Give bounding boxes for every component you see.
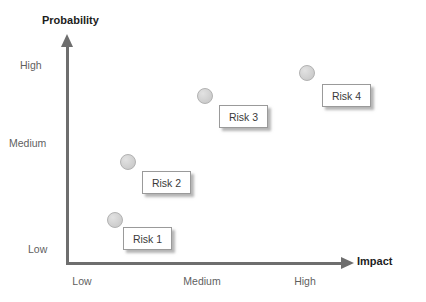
- risk-bubble-1[interactable]: [107, 212, 123, 228]
- risk-matrix-chart: Probability Impact High Medium Low Low M…: [0, 0, 426, 302]
- x-axis-title: Impact: [357, 255, 392, 267]
- x-tick-label-medium: Medium: [172, 275, 232, 287]
- x-tick-label-low: Low: [52, 275, 112, 287]
- x-tick-label-high: High: [275, 275, 335, 287]
- risk-label-text-4: Risk 4: [332, 90, 361, 102]
- y-tick-label-high: High: [20, 59, 42, 71]
- y-tick-label-medium: Medium: [9, 137, 46, 149]
- y-axis-title: Probability: [42, 14, 99, 26]
- risk-label-box-2[interactable]: Risk 2: [142, 171, 191, 194]
- risk-bubble-4[interactable]: [299, 65, 315, 81]
- risk-bubble-3[interactable]: [197, 88, 213, 104]
- y-axis-arrow-icon: [61, 34, 73, 47]
- risk-label-text-3: Risk 3: [229, 111, 258, 123]
- risk-label-box-1[interactable]: Risk 1: [123, 227, 172, 250]
- y-axis-line: [66, 46, 69, 265]
- x-axis-line: [66, 262, 343, 265]
- risk-label-text-2: Risk 2: [152, 177, 181, 189]
- risk-label-text-1: Risk 1: [133, 233, 162, 245]
- risk-label-box-4[interactable]: Risk 4: [322, 84, 371, 107]
- risk-label-box-3[interactable]: Risk 3: [219, 105, 268, 128]
- y-tick-label-low: Low: [28, 243, 47, 255]
- x-axis-arrow-icon: [341, 257, 354, 269]
- risk-bubble-2[interactable]: [120, 154, 136, 170]
